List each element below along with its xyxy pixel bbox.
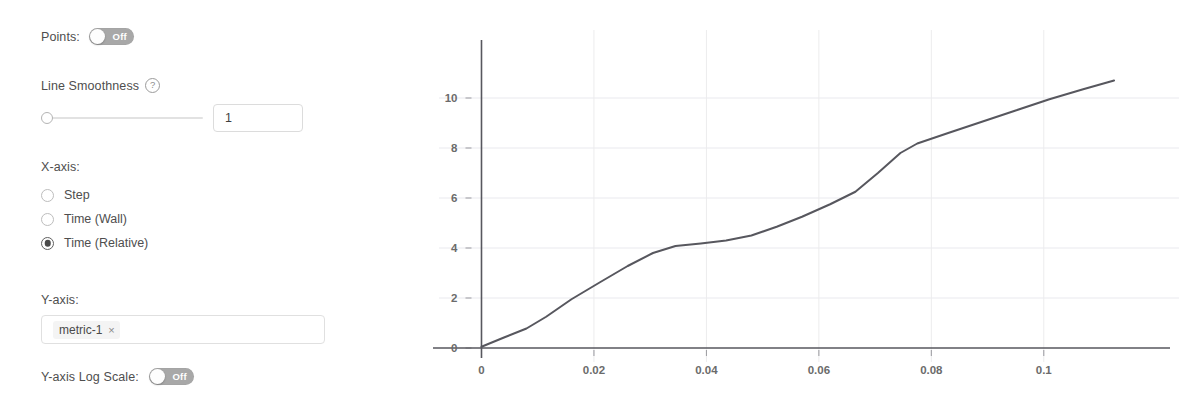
question-mark-circle-icon[interactable]: ? — [145, 78, 160, 93]
points-label: Points: — [41, 30, 80, 44]
y-axis-metric-input[interactable]: metric-1 × — [41, 315, 325, 344]
svg-text:0: 0 — [478, 364, 484, 376]
y-axis-title: Y-axis: — [41, 293, 325, 307]
svg-text:4: 4 — [451, 242, 458, 254]
line-smoothness-label-row: Line Smoothness ? — [41, 78, 160, 93]
x-axis-option-time-relative[interactable]: Time (Relative) — [41, 231, 148, 255]
y-axis-metric-chip[interactable]: metric-1 × — [53, 321, 120, 339]
vertical-gridlines — [594, 30, 1044, 362]
y-axis-log-scale-label: Y-axis Log Scale: — [41, 370, 139, 384]
y-axis-log-scale-row: Y-axis Log Scale: Off — [41, 368, 194, 385]
y-axis-log-scale-toggle-state: Off — [173, 371, 187, 382]
y-axis-log-scale-toggle-knob — [150, 369, 165, 384]
metric-chart-panel[interactable]: 0246810 00.020.040.060.080.1 — [370, 0, 1179, 408]
slider-track — [48, 117, 203, 119]
points-toggle[interactable]: Off — [89, 28, 134, 45]
svg-text:8: 8 — [451, 142, 458, 154]
svg-text:10: 10 — [445, 92, 458, 104]
line-smoothness-input[interactable]: 1 — [213, 104, 303, 132]
svg-text:0.1: 0.1 — [1036, 364, 1053, 376]
remove-chip-icon[interactable]: × — [108, 324, 114, 336]
svg-text:2: 2 — [451, 292, 457, 304]
points-setting-row: Points: Off — [41, 28, 134, 45]
y-axis-tick-marks — [465, 98, 471, 348]
svg-text:0.04: 0.04 — [695, 364, 718, 376]
chart-settings-panel: Points: Off Line Smoothness ? 1 X-axis: … — [0, 0, 370, 408]
x-axis-section: X-axis: Step Time (Wall) Time (Relative) — [41, 160, 148, 255]
x-axis-tick-labels: 00.020.040.060.080.1 — [478, 364, 1052, 376]
line-chart-svg[interactable]: 0246810 00.020.040.060.080.1 — [370, 0, 1179, 408]
x-axis-title: X-axis: — [41, 160, 148, 174]
y-axis-log-scale-toggle[interactable]: Off — [149, 368, 194, 385]
x-axis-option-time-wall-label: Time (Wall) — [64, 212, 127, 226]
radio-icon-time-wall[interactable] — [41, 213, 54, 226]
x-axis-option-time-wall[interactable]: Time (Wall) — [41, 207, 148, 231]
slider-thumb[interactable] — [41, 112, 53, 124]
line-smoothness-label: Line Smoothness — [41, 79, 139, 93]
metric-1-line — [481, 81, 1114, 347]
x-axis-tick-marks — [481, 350, 1043, 356]
svg-text:0.02: 0.02 — [583, 364, 605, 376]
x-axis-option-time-relative-label: Time (Relative) — [64, 236, 148, 250]
x-axis-option-step[interactable]: Step — [41, 183, 148, 207]
horizontal-gridlines — [439, 98, 1179, 298]
line-smoothness-slider[interactable] — [41, 109, 203, 127]
svg-text:0.08: 0.08 — [920, 364, 943, 376]
y-axis-section: Y-axis: metric-1 × — [41, 293, 325, 344]
points-toggle-knob — [90, 29, 105, 44]
svg-text:6: 6 — [451, 192, 457, 204]
svg-text:0: 0 — [451, 342, 457, 354]
radio-icon-time-relative[interactable] — [41, 237, 54, 250]
radio-icon-step[interactable] — [41, 189, 54, 202]
y-axis-metric-chip-label: metric-1 — [59, 323, 102, 337]
points-toggle-state: Off — [113, 31, 127, 42]
y-axis-tick-labels: 0246810 — [445, 92, 458, 354]
line-smoothness-controls: 1 — [41, 104, 303, 132]
svg-text:0.06: 0.06 — [808, 364, 830, 376]
x-axis-option-step-label: Step — [64, 188, 90, 202]
